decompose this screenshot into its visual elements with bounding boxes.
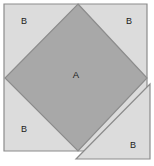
- label-region-b-bottom-left: B: [21, 124, 27, 134]
- label-region-b-top-right: B: [126, 16, 132, 26]
- label-region-b-detached: B: [130, 140, 136, 150]
- label-region-a: A: [73, 69, 80, 80]
- geometry-figure: A B B B B: [0, 0, 154, 166]
- figure-canvas: A B B B B: [0, 0, 154, 166]
- label-region-b-top-left: B: [21, 16, 27, 26]
